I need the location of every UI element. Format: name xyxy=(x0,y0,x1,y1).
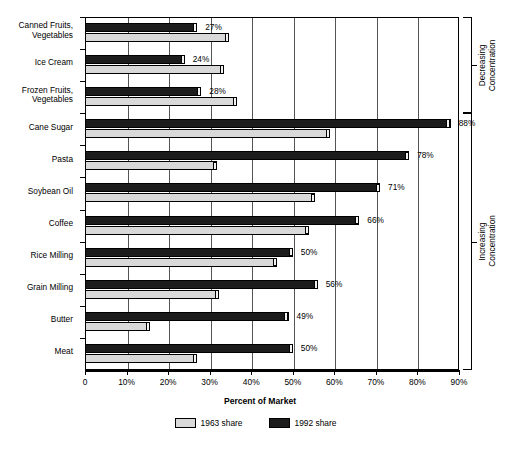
bar-1992-9 xyxy=(85,312,289,321)
x-tick-20 xyxy=(168,370,169,375)
bar-1992-8 xyxy=(85,280,318,289)
legend-label-1992: 1992 share xyxy=(295,418,337,428)
bar-end-cap xyxy=(314,280,318,289)
x-tick-label-20: 20% xyxy=(160,377,177,387)
x-tick-label-50: 50% xyxy=(284,377,301,387)
x-tick-label-30: 30% xyxy=(201,377,218,387)
bar-end-cap xyxy=(289,248,293,257)
x-tick-80 xyxy=(417,370,418,375)
x-tick-50 xyxy=(293,370,294,375)
category-label-2: Frozen Fruits, Vegetables xyxy=(0,86,73,105)
bar-1992-6 xyxy=(85,216,359,225)
x-tick-30 xyxy=(210,370,211,375)
value-label-0: 27% xyxy=(205,22,222,32)
x-tick-90 xyxy=(459,370,460,375)
bar-1992-3 xyxy=(85,119,451,128)
legend-label-1963: 1963 share xyxy=(201,418,243,428)
chart-legend: 1963 share 1992 share xyxy=(0,418,511,428)
bar-1992-5 xyxy=(85,183,380,192)
value-label-10: 50% xyxy=(301,343,318,353)
bar-1992-1 xyxy=(85,55,185,64)
x-tick-40 xyxy=(251,370,252,375)
value-label-9: 49% xyxy=(297,311,314,321)
value-label-4: 78% xyxy=(417,150,434,160)
bar-1963-3 xyxy=(85,129,330,138)
bracket-label-0: Decreasing Concentration xyxy=(478,17,497,113)
bracket-1 xyxy=(463,113,472,370)
x-tick-70 xyxy=(376,370,377,375)
x-tick-label-70: 70% xyxy=(367,377,384,387)
bar-1963-6 xyxy=(85,226,309,235)
category-label-8: Grain Milling xyxy=(0,283,73,293)
bar-1963-5 xyxy=(85,193,315,202)
value-label-7: 50% xyxy=(301,247,318,257)
category-label-6: Coffee xyxy=(0,219,73,229)
legend-swatch-1963 xyxy=(175,418,196,428)
bar-end-cap xyxy=(193,354,197,363)
bar-end-cap xyxy=(405,152,409,161)
category-label-7: Rice Milling xyxy=(0,251,73,261)
value-label-5: 71% xyxy=(388,182,405,192)
value-label-8: 56% xyxy=(326,279,343,289)
bar-end-cap xyxy=(215,290,219,299)
bar-end-cap xyxy=(376,184,380,193)
category-tick-10 xyxy=(80,338,85,339)
category-label-5: Soybean Oil xyxy=(0,187,73,197)
bar-1963-10 xyxy=(85,354,197,363)
legend-item-1963: 1963 share xyxy=(175,418,243,428)
category-tick-5 xyxy=(80,177,85,178)
bar-end-cap xyxy=(197,87,201,96)
bar-end-cap xyxy=(181,55,185,64)
bar-1963-0 xyxy=(85,33,229,42)
bracket-0 xyxy=(463,17,472,113)
category-axis-labels: Canned Fruits, VegetablesIce CreamFrozen… xyxy=(0,17,80,370)
bar-1992-0 xyxy=(85,23,197,32)
legend-item-1992: 1992 share xyxy=(269,418,337,428)
bar-end-cap xyxy=(213,162,217,171)
x-tick-label-60: 60% xyxy=(326,377,343,387)
value-label-6: 66% xyxy=(367,215,384,225)
bar-end-cap xyxy=(305,226,309,235)
bar-1963-8 xyxy=(85,290,219,299)
category-tick-2 xyxy=(80,81,85,82)
bar-1992-10 xyxy=(85,344,293,353)
bar-end-cap xyxy=(220,65,224,74)
x-tick-label-40: 40% xyxy=(243,377,260,387)
x-tick-label-90: 90% xyxy=(451,377,468,387)
category-tick-1 xyxy=(80,49,85,50)
bar-end-cap xyxy=(355,216,359,225)
bar-end-cap xyxy=(446,119,450,128)
bar-1963-9 xyxy=(85,322,150,331)
bar-1992-4 xyxy=(85,151,409,160)
bar-1992-7 xyxy=(85,248,293,257)
x-tick-10 xyxy=(127,370,128,375)
bar-end-cap xyxy=(326,129,330,138)
bar-1992-2 xyxy=(85,87,201,96)
category-label-0: Canned Fruits, Vegetables xyxy=(0,21,73,40)
x-tick-label-0: 0 xyxy=(83,377,88,387)
x-tick-label-80: 80% xyxy=(409,377,426,387)
bar-1963-7 xyxy=(85,258,277,267)
bar-end-cap xyxy=(146,322,150,331)
bar-end-cap xyxy=(289,344,293,353)
x-tick-60 xyxy=(334,370,335,375)
bar-end-cap xyxy=(225,33,229,42)
value-label-1: 24% xyxy=(193,54,210,64)
bar-1963-1 xyxy=(85,65,224,74)
x-tick-label-10: 10% xyxy=(118,377,135,387)
bar-rows xyxy=(85,17,459,370)
bar-end-cap xyxy=(311,194,315,203)
category-label-9: Butter xyxy=(0,315,73,325)
category-tick-0 xyxy=(80,17,85,18)
chart-container: Canned Fruits, VegetablesIce CreamFrozen… xyxy=(0,0,511,451)
legend-swatch-1992 xyxy=(269,418,290,428)
category-label-4: Pasta xyxy=(0,155,73,165)
category-tick-3 xyxy=(80,113,85,114)
bar-1963-2 xyxy=(85,97,237,106)
category-label-10: Meat xyxy=(0,347,73,357)
bar-end-cap xyxy=(273,258,277,267)
bar-1963-4 xyxy=(85,161,217,170)
category-label-3: Cane Sugar xyxy=(0,123,73,133)
bracket-label-1: Increasing Concentration xyxy=(478,113,497,370)
category-label-1: Ice Cream xyxy=(0,58,73,68)
